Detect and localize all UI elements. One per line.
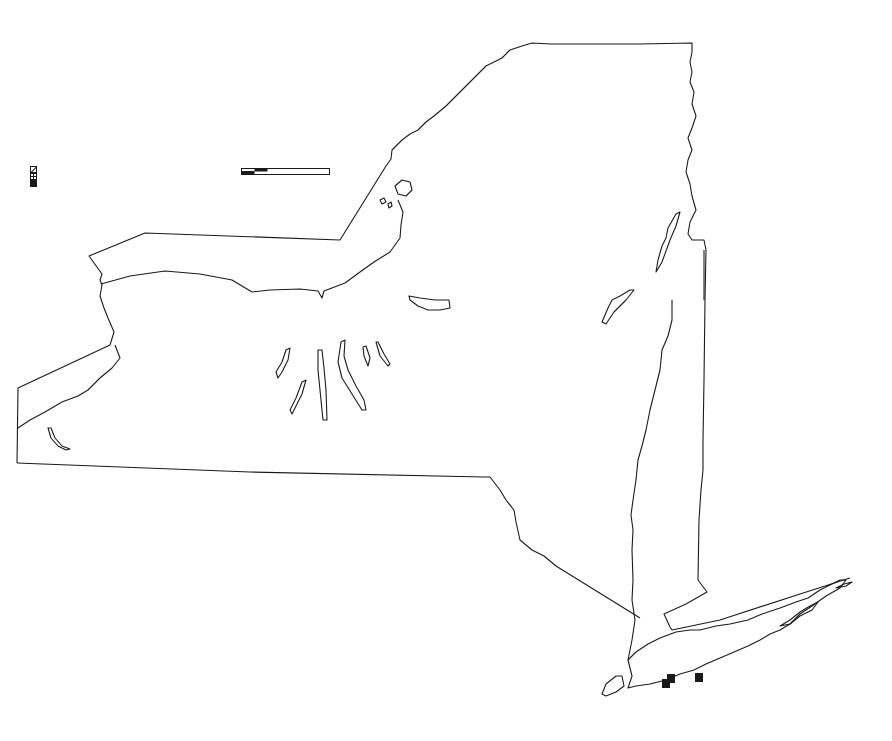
long-island xyxy=(628,580,846,688)
possible-square-icon xyxy=(30,166,37,173)
confirmed-square-icon xyxy=(30,180,37,187)
percent-header xyxy=(294,62,322,74)
legend-item-probable xyxy=(30,173,40,180)
probable-square-icon xyxy=(30,173,37,180)
confirmed-breeding-record xyxy=(695,673,703,682)
new-york-state-map xyxy=(0,0,892,741)
stats-header xyxy=(28,62,322,74)
record-markers xyxy=(662,673,703,688)
legend xyxy=(30,166,40,187)
legend-item-confirmed xyxy=(30,180,40,187)
scale-bar-km xyxy=(241,168,361,198)
scale-bar-km-graphic xyxy=(241,168,331,176)
state-outline xyxy=(17,43,850,630)
stats-table xyxy=(28,62,322,74)
legend-item-possible xyxy=(30,166,40,173)
confirmed-breeding-record xyxy=(667,674,675,683)
